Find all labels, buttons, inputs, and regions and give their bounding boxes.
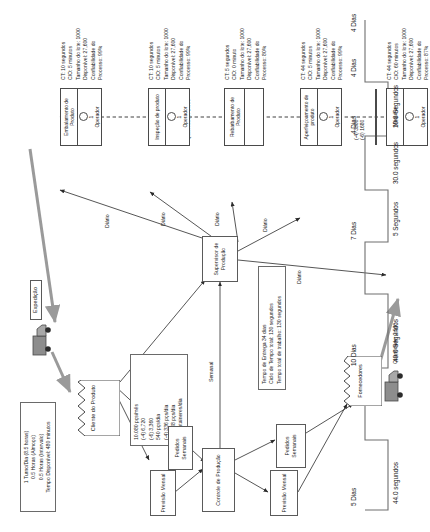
- flow-label-daily-4: Diário: [160, 212, 166, 226]
- timeline-leadtime-6: 4 Dias: [350, 14, 357, 32]
- rebarbamento-title: Rebarbamento de Produto: [225, 89, 245, 145]
- insp-d6: Processo: 99%: [185, 28, 192, 80]
- emb-d1: CT: 10 segundos: [60, 28, 67, 80]
- vsm-process-embalamento: Embalamento de Produto 1 Operador: [60, 88, 102, 146]
- maquina-d5: Confiabilidade do: [416, 28, 423, 80]
- production-supervisor-label: Supervisor de Produção: [213, 237, 226, 281]
- aperf-d6: Processo: 99%: [337, 28, 344, 80]
- emb-d6: Processo: 99%: [97, 28, 104, 80]
- rebarbamento-operator: [245, 89, 263, 145]
- timeline-leadtime-5: 4 Dias: [350, 59, 357, 77]
- rebarb-d4: Disponível: 27,600: [246, 28, 253, 80]
- aperf-d3: Tamanho do lote: 1000: [315, 28, 322, 80]
- timeline-processtime-2: 40.0 Segundos: [392, 319, 399, 362]
- rebarbamento-data-list: CT: 5 segundos C/O: 0 minuto Tamanho do …: [224, 28, 268, 80]
- customer-label: Cliente do Produto: [90, 380, 97, 436]
- monthly-forecast-top-label: Previsão Mensal: [160, 473, 167, 512]
- monthly-forecast-bottom-label: Previsão Mensal: [281, 473, 288, 512]
- operator-icon: [167, 113, 176, 122]
- inspecao-operator-label: Operador: [182, 106, 188, 127]
- embalamento-data-list: CT: 10 segundos C/O: 5 minutos Tamanho d…: [60, 28, 104, 80]
- aperf-d5: Confiabilidade do: [330, 28, 337, 80]
- timeline-leadtime-4: 4 Dias: [350, 116, 357, 134]
- demand-line-1: 10.080 pçs/mês: [133, 358, 140, 440]
- shipping-label-box: Expedição: [30, 280, 42, 320]
- emb-d4: Disponível: 27,600: [82, 28, 89, 80]
- demand-line-3: (-6) 3,360: [148, 358, 155, 440]
- inspecao-data-list: CT: 10 segundos C/O: 5 minutos Tamanho d…: [148, 28, 192, 80]
- shift-line-3: 0.5 Horas (Intervalo): [38, 406, 45, 508]
- emb-d3: Tamanho do lote: 1000: [75, 28, 82, 80]
- maquina-d1: CT: 44 segundos: [386, 28, 393, 80]
- monthly-forecast-top-box: Previsão Mensal: [150, 470, 176, 516]
- maquina-d4: Disponível: 27,600: [408, 28, 415, 80]
- weekly-orders-bottom-box: Pedidos Semanais: [276, 424, 306, 468]
- timeline-processtime-4: 30.0 segundos: [392, 142, 399, 184]
- timeline-processtime-3: 5 Segundos: [392, 202, 399, 236]
- operator-icon: [405, 113, 414, 122]
- vsm-process-rebarbamento: Rebarbamento de Produto: [224, 88, 264, 146]
- emb-d5: Confiabilidade do: [90, 28, 97, 80]
- insp-d5: Confiabilidade do: [178, 28, 185, 80]
- shift-line-1: 1 Turno/Dia (8.5 horas): [23, 406, 30, 508]
- maquina-d3: Tamanho do lote: 1000: [401, 28, 408, 80]
- aperfeicoamento-data-list: CT: 44 segundos C/O: 5 minutos Tamanho d…: [300, 28, 344, 80]
- rebarb-d2: C/O: 0 minuto: [231, 28, 238, 80]
- maquina-d2: C/O: 60 minutos: [393, 28, 400, 80]
- rebarb-d3: Tamanho do lote: 1000: [239, 28, 246, 80]
- shipping-truck-icon: [30, 322, 52, 356]
- insp-d4: Disponível: 27,600: [170, 28, 177, 80]
- flow-label-daily-3: Diário: [214, 212, 220, 226]
- shift-line-4: Tempo Disponível: 480 minutos: [45, 406, 52, 508]
- weekly-orders-top-label: Pedidos Semanais: [174, 427, 187, 469]
- inspecao-operator: 1 Operador: [166, 89, 189, 145]
- emb-d2: C/O: 5 minutos: [67, 28, 74, 80]
- summary-line-2: Ciclo de Tempo total: 130 segundos: [268, 270, 275, 384]
- embalamento-title: Embalamento de Produto: [61, 89, 78, 145]
- operator-icon: [319, 113, 328, 122]
- rebarb-d1: CT: 5 segundos: [224, 28, 231, 80]
- rebarb-d5: Confiabilidade do: [254, 28, 261, 80]
- insp-d1: CT: 10 segundos: [148, 28, 155, 80]
- weekly-orders-bottom-label: Pedidos Semanais: [284, 425, 297, 467]
- aperf-d2: C/O: 5 minutos: [307, 28, 314, 80]
- supplier-truck-icon: [382, 368, 404, 402]
- entity-customer: Cliente do Produto: [78, 380, 120, 436]
- timeline-leadtime-1: 5 Dias: [350, 488, 357, 506]
- aperf-d4: Disponível: 27,600: [322, 28, 329, 80]
- inspecao-title: Inspeção de produto: [149, 89, 166, 145]
- timeline-processtime-1: 44.0 segundos: [392, 462, 399, 504]
- insp-d3: Tamanho do lote: 1000: [163, 28, 170, 80]
- maquina-d6: Processo: 87%: [423, 28, 430, 80]
- shipping-label: Expedição: [32, 287, 39, 313]
- vsm-process-inspecao: Inspeção de produto 1 Operador: [148, 88, 190, 146]
- production-control-label: Controle de Produção: [215, 454, 222, 506]
- summary-line-1: Tempo de Entrega 34 dias: [261, 270, 268, 384]
- flow-label-daily-2: Diário: [262, 218, 268, 232]
- insp-d2: C/O: 5 minutos: [155, 28, 162, 80]
- embalamento-operator: 1 Operador: [78, 89, 101, 145]
- aperfeicoamento-operator-label: Operador: [334, 106, 340, 127]
- rebarb-d6: Processo: 80%: [261, 28, 268, 80]
- summary-line-3: Tempo total de trabalho: 130 segundos: [276, 270, 283, 384]
- vsm-process-aperfeicoamento: Aperfeiçoamento de produto 1 Operador: [300, 88, 342, 146]
- customer-shape: [78, 380, 120, 436]
- flow-label-weekly: Semanal: [208, 362, 214, 382]
- operator-icon: [79, 113, 88, 122]
- timeline-leadtime-3: 7 Dias: [350, 222, 357, 240]
- production-control-box: Controle de Produção: [202, 448, 235, 512]
- timeline-processtime-5: 10.0 Segundos: [392, 85, 399, 128]
- maquina-operator: 1 Operador: [404, 89, 427, 145]
- aperfeicoamento-title: Aperfeiçoamento de produto: [301, 89, 318, 145]
- maquina-data-list: CT: 44 segundos C/O: 60 minutos Tamanho …: [386, 28, 430, 80]
- demand-line-2: (-4) 6,720: [140, 358, 147, 440]
- shift-line-2: 0.5 Horas (Almoço): [30, 406, 37, 508]
- timeline-leadtime-2: 10 Dias: [350, 344, 357, 366]
- monthly-forecast-bottom-box: Previsão Mensal: [270, 470, 298, 516]
- shift-info-box: 1 Turno/Dia (8.5 horas) 0.5 Horas (Almoç…: [20, 402, 56, 512]
- maquina-operator-label: Operador: [420, 106, 426, 127]
- process-maquina-main: [375, 89, 377, 145]
- embalamento-operator-label: Operador: [94, 106, 100, 127]
- production-supervisor-box: Supervisor de Produção: [202, 236, 238, 282]
